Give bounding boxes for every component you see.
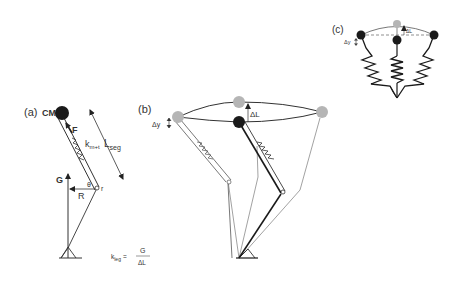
force-label: F (72, 125, 78, 135)
biomechanics-figure: (a) CM F km+t Lseg G R θ (0, 0, 462, 281)
black-mass-center-c (393, 36, 402, 45)
panel-c: (c) ΔL Δy (332, 20, 439, 98)
panel-a: (a) CM F km+t Lseg G R θ (24, 106, 150, 266)
gray-legs (228, 118, 320, 258)
delta-y-label: Δy (152, 121, 161, 129)
leg-segment-a (58, 116, 99, 258)
moment-arm-label: R (78, 191, 85, 201)
panel-b-label: (b) (138, 103, 151, 115)
delta-l-label: ΔL (250, 110, 260, 119)
left-leg-b (175, 119, 232, 258)
delta-l-label-c: ΔL (406, 28, 412, 34)
black-mass (233, 116, 245, 128)
cm-label: CM (42, 108, 56, 118)
svg-text:kleg=: kleg= (111, 253, 127, 262)
panel-b: (b) (138, 96, 328, 258)
panel-a-label: (a) (24, 106, 37, 118)
black-mass-left-c (357, 31, 366, 40)
gray-mass-right (316, 106, 328, 118)
leg-stiffness-equation: kleg= G ΔL (111, 247, 150, 266)
gray-mass-left (172, 111, 184, 123)
spring-label: km+t (85, 139, 100, 150)
panel-c-label: (c) (332, 24, 344, 35)
gray-mass-top (233, 96, 245, 108)
ground-force-label: G (56, 175, 63, 185)
knee-joint-a (95, 186, 99, 190)
angle-label: θ (87, 181, 91, 188)
delta-y-marker (167, 118, 171, 128)
delta-y-marker-c (355, 39, 358, 46)
equation-numerator: G (140, 247, 145, 254)
stance-leg-b (236, 122, 285, 258)
segment-length-label: Lseg (104, 138, 121, 152)
black-mass-right-c (430, 31, 439, 40)
delta-y-label-c: Δy (344, 39, 351, 45)
gray-mass-c (393, 20, 401, 28)
center-of-mass-ball (55, 106, 69, 120)
equation-denominator: ΔL (138, 259, 146, 266)
joint-radius-label: r (101, 185, 104, 192)
